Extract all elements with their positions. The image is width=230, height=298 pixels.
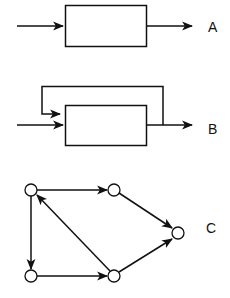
label-b: B bbox=[208, 121, 217, 137]
edge-n5-n1 bbox=[37, 195, 110, 271]
node-n4 bbox=[25, 270, 37, 282]
diagram-a: A bbox=[17, 6, 218, 47]
node-n1 bbox=[25, 184, 37, 196]
node-n3 bbox=[172, 227, 184, 239]
block-a bbox=[66, 6, 147, 47]
node-n2 bbox=[108, 184, 120, 196]
diagram-c: C bbox=[25, 184, 216, 282]
label-c: C bbox=[206, 220, 216, 236]
block-b bbox=[66, 106, 147, 146]
node-n5 bbox=[108, 270, 120, 282]
label-a: A bbox=[208, 19, 218, 35]
edge-n2-n3 bbox=[119, 193, 172, 228]
diagram-canvas: A B C bbox=[0, 0, 230, 298]
edge-n5-n3 bbox=[119, 239, 172, 272]
diagram-b: B bbox=[17, 87, 217, 146]
